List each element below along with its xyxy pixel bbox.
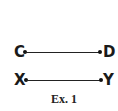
line-segment-xy (26, 80, 101, 81)
point-label-y: Y (103, 73, 114, 88)
endpoint-dot-d (98, 50, 102, 54)
figure-caption: Ex. 1 (0, 92, 118, 107)
point-label-d: D (103, 45, 115, 60)
line-segment-cd (25, 52, 100, 53)
